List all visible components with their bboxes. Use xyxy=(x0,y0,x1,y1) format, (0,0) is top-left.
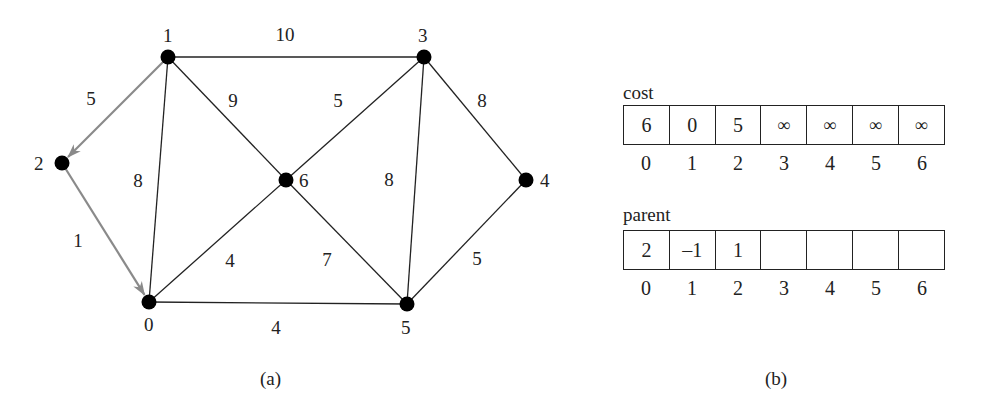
edge-weight-1-6: 9 xyxy=(228,90,238,111)
vertex-1 xyxy=(161,50,176,65)
vertex-0 xyxy=(142,295,157,310)
cost-index-0: 0 xyxy=(623,152,669,175)
cost-index-6: 6 xyxy=(899,152,945,175)
vertex-6 xyxy=(279,173,294,188)
edge-3-5 xyxy=(407,57,424,304)
parent-index-4: 4 xyxy=(807,277,853,300)
edge-weight-1-3: 10 xyxy=(276,24,295,45)
parent-cell-1: –1 xyxy=(669,231,715,270)
cost-cell-5: ∞ xyxy=(852,106,898,145)
edge-weight-2-0: 1 xyxy=(73,230,83,251)
cost-cell-0: 6 xyxy=(624,106,670,145)
vertex-label-4: 4 xyxy=(540,170,550,191)
edge-weight-4-5: 5 xyxy=(472,248,482,269)
vertex-5 xyxy=(400,297,415,312)
edge-3-4 xyxy=(424,57,526,180)
parent-index-row: 0 1 2 3 4 5 6 xyxy=(623,277,945,300)
vertex-2 xyxy=(55,156,70,171)
edge-6-5 xyxy=(286,180,407,304)
parent-index-2: 2 xyxy=(715,277,761,300)
edge-0-5 xyxy=(149,302,407,304)
parent-index-1: 1 xyxy=(669,277,715,300)
cost-cell-4: ∞ xyxy=(807,106,853,145)
graph-diagram: 10598158847540123456 xyxy=(0,0,600,400)
parent-cell-4 xyxy=(807,231,853,270)
cost-array-label: cost xyxy=(623,82,654,104)
cost-index-2: 2 xyxy=(715,152,761,175)
edge-weight-3-4: 8 xyxy=(477,90,487,111)
parent-array: 2 –1 1 xyxy=(623,230,945,270)
cost-cell-2: 5 xyxy=(715,106,761,145)
cost-cell-1: 0 xyxy=(669,106,715,145)
cost-index-1: 1 xyxy=(669,152,715,175)
edge-weight-1-0: 8 xyxy=(133,170,143,191)
cost-cell-3: ∞ xyxy=(761,106,807,145)
edge-6-0 xyxy=(149,180,286,302)
caption-a: (a) xyxy=(260,368,281,390)
edge-3-6 xyxy=(286,57,424,180)
vertex-label-0: 0 xyxy=(144,314,154,335)
edge-weight-0-5: 4 xyxy=(271,317,281,338)
edge-weight-1-2: 5 xyxy=(86,88,96,109)
parent-index-3: 3 xyxy=(761,277,807,300)
cost-array: 6 0 5 ∞ ∞ ∞ ∞ xyxy=(623,105,945,145)
vertex-label-1: 1 xyxy=(163,25,173,46)
parent-index-0: 0 xyxy=(623,277,669,300)
edge-weight-6-0: 4 xyxy=(225,250,235,271)
vertex-3 xyxy=(417,50,432,65)
parent-cell-5 xyxy=(852,231,898,270)
parent-cell-2: 1 xyxy=(715,231,761,270)
parent-cell-3 xyxy=(761,231,807,270)
vertex-label-6: 6 xyxy=(299,170,309,191)
parent-index-5: 5 xyxy=(853,277,899,300)
edge-weight-3-6: 5 xyxy=(333,90,343,111)
vertex-label-3: 3 xyxy=(418,25,428,46)
edge-1-0 xyxy=(149,57,168,302)
cost-index-3: 3 xyxy=(761,152,807,175)
parent-index-6: 6 xyxy=(899,277,945,300)
vertex-label-5: 5 xyxy=(401,317,411,338)
vertex-4 xyxy=(519,173,534,188)
edge-2-0 xyxy=(62,163,144,295)
nodes-group xyxy=(55,50,534,312)
cost-index-5: 5 xyxy=(853,152,899,175)
parent-cell-6 xyxy=(898,231,944,270)
parent-array-label: parent xyxy=(623,204,670,226)
edge-4-5 xyxy=(407,180,526,304)
cost-cell-6: ∞ xyxy=(898,106,944,145)
vertex-label-2: 2 xyxy=(34,153,44,174)
edges-group xyxy=(62,57,526,304)
edge-1-6 xyxy=(168,57,286,180)
cost-index-row: 0 1 2 3 4 5 6 xyxy=(623,152,945,175)
cost-index-4: 4 xyxy=(807,152,853,175)
parent-cell-0: 2 xyxy=(624,231,670,270)
caption-b: (b) xyxy=(765,368,787,390)
edge-1-2 xyxy=(68,57,168,157)
edge-weight-6-5: 7 xyxy=(322,249,332,270)
edge-weight-3-5: 8 xyxy=(384,169,394,190)
